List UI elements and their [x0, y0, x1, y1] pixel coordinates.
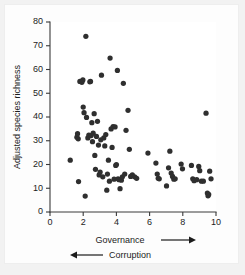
data-point [95, 119, 100, 124]
data-point [98, 169, 103, 174]
data-point [207, 169, 212, 174]
data-point [83, 34, 88, 39]
data-point [166, 165, 171, 170]
data-point [96, 142, 101, 147]
data-point [153, 160, 158, 165]
data-point [201, 179, 206, 184]
y-tick-label: 80 [33, 16, 43, 26]
y-tick-label: 30 [33, 135, 43, 145]
y-tick-label: 60 [33, 64, 43, 74]
governance-arrow-head-icon [189, 237, 196, 244]
scatter-plot: 01020304050607080 0246810 Adjusted speci… [0, 0, 245, 275]
data-point [121, 81, 126, 86]
y-tick-label: 10 [33, 183, 43, 193]
data-point [194, 177, 199, 182]
y-axis-label: Adjusted species richness [12, 64, 22, 169]
data-point [68, 158, 73, 163]
data-point [76, 136, 81, 141]
data-point [104, 188, 109, 193]
x-axis-label-governance: Governance [95, 235, 144, 245]
data-point [189, 163, 194, 168]
data-point [109, 145, 114, 150]
x-tick-label: 0 [47, 217, 52, 227]
data-point [107, 55, 112, 60]
y-tick-label: 70 [33, 40, 43, 50]
x-tick-label: 4 [114, 217, 119, 227]
data-point [114, 162, 119, 167]
data-point [203, 111, 208, 116]
data-point [179, 161, 184, 166]
data-point [208, 176, 213, 181]
data-point [93, 167, 98, 172]
data-point [145, 150, 150, 155]
x-axis: 0246810 [47, 212, 221, 227]
data-point [206, 192, 211, 197]
x-tick-label: 2 [81, 217, 86, 227]
data-point [100, 174, 105, 179]
y-tick-label: 40 [33, 111, 43, 121]
data-point [112, 124, 117, 129]
plot-area [50, 22, 216, 212]
data-point [83, 193, 88, 198]
y-tick-label: 0 [38, 206, 43, 216]
plot-background [50, 22, 216, 212]
data-point [84, 115, 89, 120]
data-point [99, 73, 104, 78]
data-point [92, 153, 97, 158]
x-axis-label-corruption: Corruption [109, 250, 151, 260]
data-point [125, 108, 130, 113]
data-point [102, 143, 107, 148]
data-point [123, 128, 128, 133]
data-point [94, 134, 99, 139]
data-point [106, 158, 111, 163]
data-point [115, 68, 120, 73]
data-point [164, 183, 169, 188]
data-point [92, 111, 97, 116]
corruption-arrow-head-icon [70, 252, 77, 259]
data-point [105, 171, 110, 176]
data-point [88, 79, 93, 84]
data-point [127, 147, 132, 152]
data-point [81, 110, 86, 115]
y-tick-label: 50 [33, 88, 43, 98]
data-point [157, 176, 162, 181]
figure-container: 01020304050607080 0246810 Adjusted speci… [0, 0, 245, 275]
data-point [180, 166, 185, 171]
x-tick-label: 8 [180, 217, 185, 227]
data-point [89, 120, 94, 125]
x-tick-label: 10 [211, 217, 221, 227]
data-point [107, 179, 112, 184]
data-point [117, 186, 122, 191]
data-point [103, 132, 108, 137]
data-point [167, 149, 172, 154]
data-point [76, 179, 81, 184]
data-point [197, 168, 202, 173]
x-tick-label: 6 [147, 217, 152, 227]
data-point [81, 104, 86, 109]
data-point [90, 139, 95, 144]
data-point [122, 171, 127, 176]
data-point [75, 131, 80, 136]
data-point [173, 176, 178, 181]
data-point [80, 77, 85, 82]
y-tick-label: 20 [33, 159, 43, 169]
y-axis: 01020304050607080 [33, 16, 50, 216]
data-point [134, 176, 139, 181]
